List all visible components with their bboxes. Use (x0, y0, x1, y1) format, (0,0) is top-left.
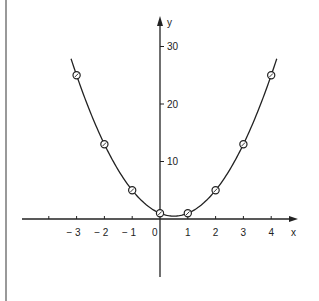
x-tick-label: 1 (185, 227, 191, 238)
x-tick-label: 3 (241, 227, 247, 238)
axis-ticks: − 3− 2− 101234102030 (49, 41, 275, 238)
y-tick-label: 10 (167, 156, 179, 167)
x-tick-label: − 2 (94, 227, 109, 238)
x-tick-label: 2 (213, 227, 219, 238)
y-axis-label: y (167, 17, 172, 28)
x-axis-label: x (291, 227, 296, 238)
y-tick-label: 30 (167, 41, 179, 52)
chart: − 3− 2− 101234102030 x y (0, 0, 319, 301)
x-tick-label: 0 (152, 227, 158, 238)
x-tick-label: − 3 (66, 227, 81, 238)
y-tick-label: 20 (167, 99, 179, 110)
x-tick-label: 4 (268, 227, 274, 238)
data-point-markers (73, 72, 275, 217)
axes (22, 16, 298, 277)
x-tick-label: − 1 (122, 227, 137, 238)
parabola-curve (71, 59, 277, 216)
y-axis-arrow-icon (157, 16, 163, 26)
x-axis-arrow-icon (289, 216, 298, 222)
